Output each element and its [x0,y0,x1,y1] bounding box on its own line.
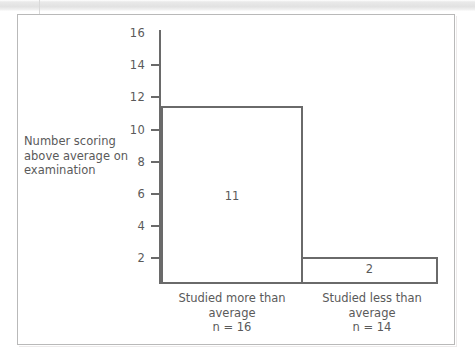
category-label-1-line-2: average [158,306,306,321]
y-tick-mark-8 [151,161,159,163]
y-tick-mark-12 [151,96,159,98]
y-tick-mark-2 [151,257,159,259]
bar-value-label-2: 2 [301,263,438,276]
category-label-studied-less: Studied less than average n = 14 [302,291,442,335]
y-tick-mark-14 [151,64,159,66]
y-tick-label-10: 10 [107,124,145,136]
y-axis-title-line-1: Number scoring [24,134,136,149]
y-tick-mark-6 [151,193,159,195]
category-label-2-line-1: Studied less than [302,291,442,306]
y-tick-label-16: 16 [107,27,145,39]
category-label-2-sample-size: n = 14 [302,320,442,335]
y-tick-mark-4 [151,225,159,227]
bar-chart-plot: Number scoring above average on examinat… [0,0,475,360]
y-tick-label-2: 2 [107,252,145,264]
category-label-1-line-1: Studied more than [158,291,306,306]
bar-value-label-1: 11 [161,190,303,203]
y-tick-label-6: 6 [107,188,145,200]
category-label-2-line-2: average [302,306,442,321]
category-label-studied-more: Studied more than average n = 16 [158,291,306,335]
y-tick-mark-10 [151,129,159,131]
y-tick-label-12: 12 [107,91,145,103]
category-label-1-sample-size: n = 16 [158,320,306,335]
y-tick-label-14: 14 [107,59,145,71]
y-tick-label-4: 4 [107,220,145,232]
y-tick-label-8: 8 [107,156,145,168]
